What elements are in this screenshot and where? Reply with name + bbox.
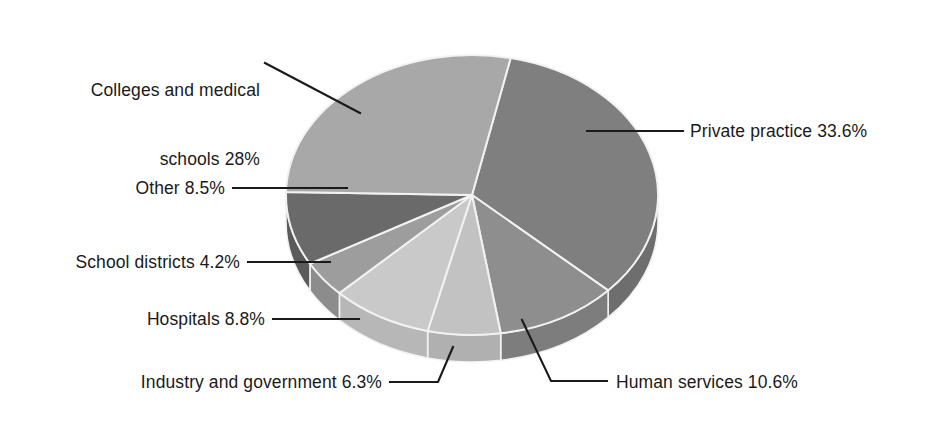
label-other: Other 8.5% [0,177,225,200]
leader-line-colleges [265,63,360,113]
label-industry-and-government: Industry and government 6.3% [0,371,382,394]
label-private-practice: Private practice 33.6% [690,120,867,143]
label-hospitals: Hospitals 8.8% [0,308,265,331]
label-colleges-line-2: schools 28% [30,148,260,171]
pie-top-face: Private practice 33.6%Human services 10.… [286,55,658,335]
label-human-services: Human services 10.6% [616,371,798,394]
label-colleges-line-1: Colleges and medical [30,79,260,102]
label-school-districts: School districts 4.2% [0,251,240,274]
pie-chart-figure: Private practice 33.6%Human services 10.… [0,0,927,423]
pie-slice-colleges-and-medical-schools[interactable]: Colleges and medical schools 28% [286,55,511,195]
